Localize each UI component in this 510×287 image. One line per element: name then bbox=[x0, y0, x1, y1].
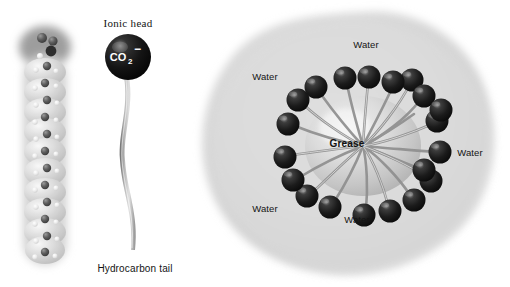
water-label-top: Water bbox=[353, 40, 379, 50]
head-sphere bbox=[277, 113, 300, 136]
head-sphere bbox=[274, 146, 297, 169]
svg-text:−: − bbox=[134, 42, 141, 56]
diagram-svg: CO 2 − bbox=[0, 0, 510, 287]
head-sphere bbox=[334, 67, 357, 90]
space-filling-model bbox=[19, 26, 71, 265]
water-label-right: Water bbox=[457, 148, 483, 158]
head-sphere bbox=[379, 200, 402, 223]
ionic-head-label: Ionic head bbox=[103, 18, 152, 29]
svg-text:CO: CO bbox=[110, 51, 127, 63]
head-sphere bbox=[358, 66, 381, 89]
head-sphere bbox=[429, 141, 452, 164]
hydrocarbon-tail-label: Hydrocarbon tail bbox=[97, 264, 172, 274]
head-sphere bbox=[403, 189, 426, 212]
head-sphere bbox=[413, 159, 436, 182]
water-label-left: Water bbox=[252, 72, 278, 82]
figure-canvas: CO 2 − bbox=[0, 0, 510, 287]
schematic-soap-molecule: CO 2 − bbox=[105, 34, 151, 250]
head-sphere bbox=[430, 99, 453, 122]
grease-label: Grease bbox=[330, 139, 365, 149]
water-label-bottom-left: Water bbox=[252, 204, 278, 214]
head-sphere bbox=[382, 71, 405, 94]
svg-text:2: 2 bbox=[128, 57, 133, 66]
water-label-bottom: Water bbox=[344, 215, 370, 225]
head-sphere bbox=[319, 196, 342, 219]
head-sphere bbox=[305, 76, 328, 99]
head-sphere bbox=[282, 169, 305, 192]
